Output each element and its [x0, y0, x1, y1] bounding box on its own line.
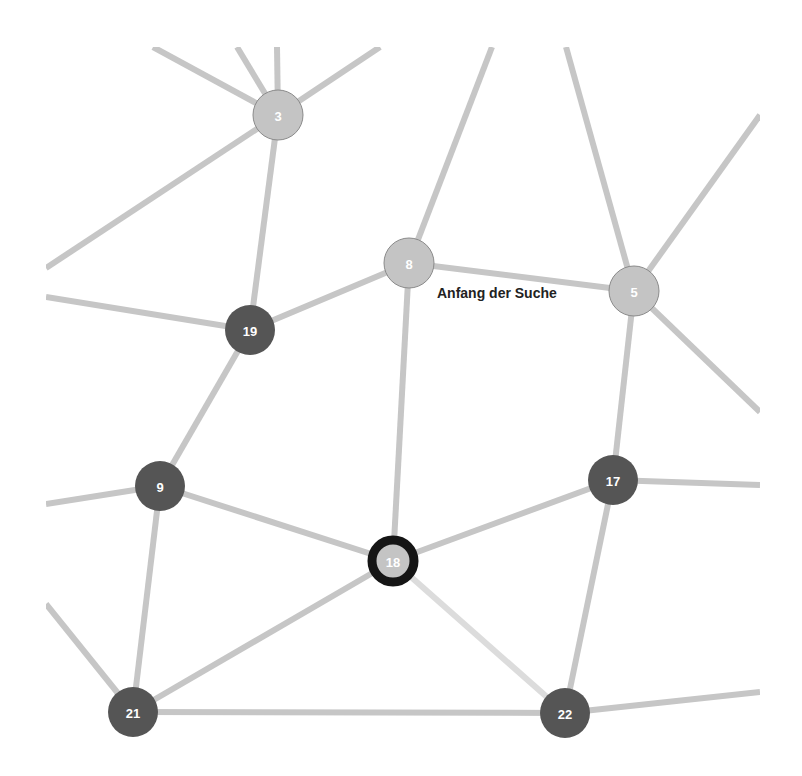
edge-21-22 [133, 712, 565, 713]
node-label: 19 [243, 324, 257, 339]
node-label: 5 [630, 285, 637, 300]
node-label: 8 [405, 257, 412, 272]
start-annotation: Anfang der Suche [437, 285, 557, 301]
graph-node-5: 5 [609, 266, 659, 316]
edge-19-9 [160, 330, 250, 486]
edge-17-22 [565, 480, 613, 713]
node-label: 17 [606, 474, 620, 489]
edge-9-18 [160, 486, 393, 561]
edge-18-17 [393, 480, 613, 561]
node-label: 18 [386, 555, 400, 570]
edge-8-18 [393, 263, 409, 561]
search-graph: 38519917182122 Anfang der Suche [0, 0, 802, 776]
edge-22-offscreen [565, 692, 760, 713]
edge-19-offscreen [46, 297, 250, 330]
edge-3-offscreen [46, 115, 278, 268]
edge-18-21 [133, 561, 393, 712]
graph-node-21: 21 [108, 687, 158, 737]
edge-5-offscreen [634, 115, 760, 291]
edge-18-22 [393, 561, 565, 713]
edge-3-19 [250, 115, 278, 330]
graph-node-9: 9 [135, 461, 185, 511]
edge-5-offscreen [566, 47, 634, 291]
graph-node-17: 17 [588, 455, 638, 505]
graph-node-3: 3 [253, 90, 303, 140]
node-label: 3 [274, 109, 281, 124]
node-label: 9 [156, 480, 163, 495]
graph-node-22: 22 [540, 688, 590, 738]
edge-5-17 [613, 291, 634, 480]
graph-node-18: 18 [372, 540, 414, 582]
edge-19-8 [250, 263, 409, 330]
edge-8-offscreen [409, 47, 492, 263]
node-layer: 38519917182122 [108, 90, 659, 738]
graph-node-19: 19 [225, 305, 275, 355]
edge-layer [46, 47, 760, 713]
graph-node-8: 8 [384, 238, 434, 288]
node-label: 22 [558, 707, 572, 722]
node-label: 21 [126, 706, 140, 721]
edge-9-21 [133, 486, 160, 712]
edge-5-offscreen [634, 291, 760, 412]
